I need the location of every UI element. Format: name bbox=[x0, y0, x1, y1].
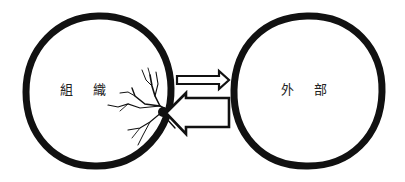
arrow-right-icon bbox=[177, 71, 229, 89]
external-label: 外 部 bbox=[281, 83, 335, 97]
crack-icon bbox=[108, 68, 175, 145]
organization-label: 組 織 bbox=[60, 83, 114, 97]
